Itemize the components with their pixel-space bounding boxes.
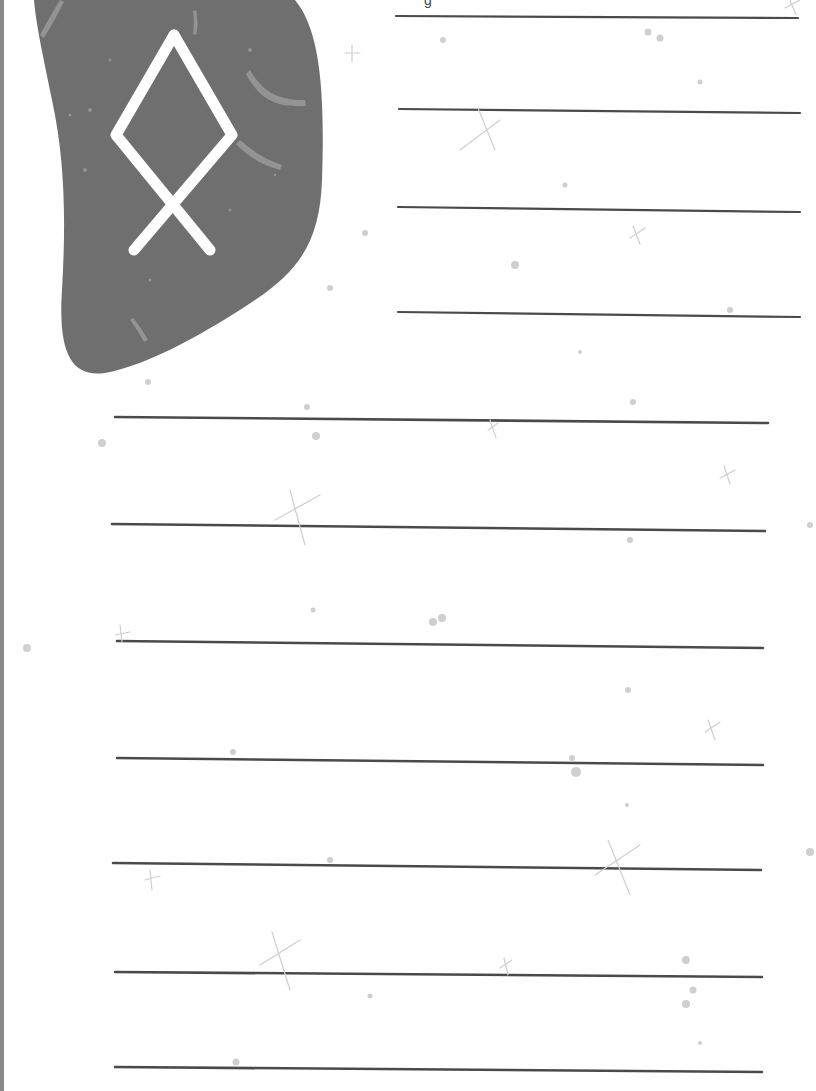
sparkle-icon <box>705 720 720 740</box>
sparkle-icon <box>785 0 800 15</box>
sparkle-icon <box>275 490 320 545</box>
short-writing-lines <box>396 16 800 317</box>
sparkle-icon <box>720 466 735 484</box>
writing-line-long-3[interactable] <box>117 641 763 648</box>
writing-line-long-6[interactable] <box>115 972 762 977</box>
rune-stone <box>34 0 323 374</box>
stone-shape <box>34 0 323 374</box>
sparkle-icon <box>115 625 130 642</box>
sparkle-icon <box>460 108 500 150</box>
writing-line-long-7[interactable] <box>115 1067 762 1072</box>
writing-line-long-5[interactable] <box>113 863 761 870</box>
writing-line-short-1[interactable] <box>396 16 798 18</box>
long-writing-lines <box>112 417 768 1072</box>
sparkle-icon <box>345 45 360 62</box>
sparkle-icon <box>260 932 300 990</box>
sparkle-icon <box>630 226 645 244</box>
writing-line-long-1[interactable] <box>115 417 768 423</box>
writing-line-long-4[interactable] <box>117 758 763 765</box>
sparkle-icon <box>488 420 498 438</box>
writing-line-short-3[interactable] <box>398 207 800 212</box>
writing-line-short-2[interactable] <box>399 109 800 113</box>
writing-line-long-2[interactable] <box>112 524 765 531</box>
sparkle-icon <box>500 958 512 975</box>
sparkle-icon <box>145 870 160 890</box>
writing-line-short-4[interactable] <box>398 312 800 317</box>
worksheet-artwork <box>0 0 816 1091</box>
